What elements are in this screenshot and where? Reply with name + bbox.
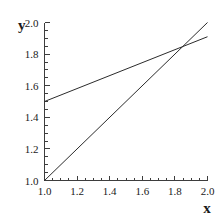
y-tick-label: 2.0 [25, 17, 39, 29]
x-tick-label: 1.8 [168, 185, 182, 197]
x-tick-label: 1.2 [70, 185, 84, 197]
data-series [45, 23, 208, 181]
x-tick-label: 1.6 [135, 185, 149, 197]
x-tick-label: 1.4 [103, 185, 117, 197]
x-tick-label: 1.0 [38, 185, 52, 197]
x-tick-label: 2.0 [201, 185, 215, 197]
y-tick-label: 1.6 [25, 80, 39, 92]
y-tick-label: 1.2 [25, 143, 39, 155]
y-axis-title: y [18, 17, 26, 33]
y-tick-label: 1.0 [25, 175, 39, 187]
chart-figure: 1.01.21.41.61.82.01.01.21.41.61.82.0 y x [0, 0, 223, 220]
series-shallow-line [45, 37, 208, 102]
y-tick-label: 1.4 [25, 111, 39, 123]
y-tick-label: 1.8 [25, 48, 39, 60]
x-axis-title: x [203, 200, 211, 216]
plot-canvas: 1.01.21.41.61.82.01.01.21.41.61.82.0 y x [0, 0, 223, 220]
